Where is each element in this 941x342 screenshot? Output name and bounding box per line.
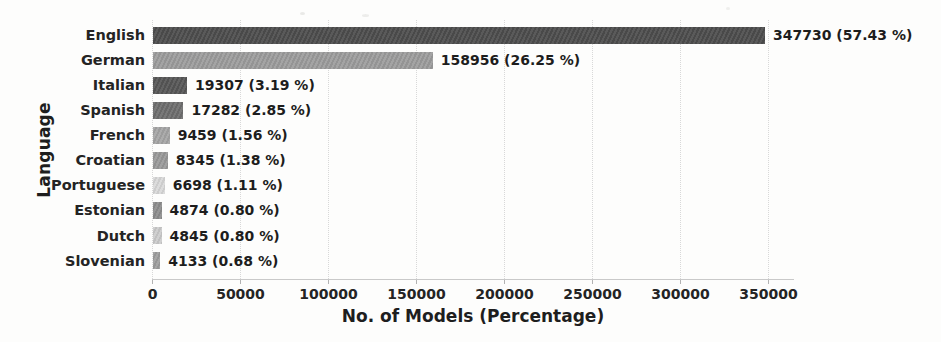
- gridline: [768, 20, 769, 279]
- bar: [153, 27, 765, 44]
- bar-value-label: 9459 (1.56 %): [178, 126, 288, 144]
- bar-value-label: 17282 (2.85 %): [191, 101, 311, 119]
- bar: [153, 177, 165, 194]
- bar-value-label: 4874 (0.80 %): [170, 201, 280, 219]
- bar-value-label: 4845 (0.80 %): [170, 227, 280, 245]
- language-models-bar-chart: Language 347730 (57.43 %)158956 (26.25 %…: [0, 0, 941, 342]
- bar-value-label: 4133 (0.68 %): [168, 252, 278, 270]
- x-axis-tick-label: 0: [118, 286, 188, 302]
- x-axis-tick: [416, 280, 417, 284]
- x-axis-tick: [504, 280, 505, 284]
- scan-speck: [362, 14, 369, 17]
- x-axis-title: No. of Models (Percentage): [152, 306, 794, 326]
- x-axis-tick: [152, 280, 153, 284]
- category-label: German: [0, 51, 145, 69]
- x-axis-line: [152, 279, 794, 280]
- scan-speck: [726, 7, 730, 10]
- bar: [153, 152, 168, 169]
- category-label: Dutch: [0, 227, 145, 245]
- x-axis-tick-label: 150000: [382, 286, 452, 302]
- bar-value-label: 6698 (1.11 %): [173, 176, 283, 194]
- x-axis-tick-label: 350000: [734, 286, 804, 302]
- category-label: Italian: [0, 76, 145, 94]
- x-axis-tick-label: 250000: [558, 286, 628, 302]
- x-axis-tick: [592, 280, 593, 284]
- bar-value-label: 347730 (57.43 %): [773, 26, 912, 44]
- x-axis-tick: [240, 280, 241, 284]
- x-axis-tick-label: 50000: [206, 286, 276, 302]
- category-label: Slovenian: [0, 252, 145, 270]
- bar: [153, 102, 183, 119]
- bar-value-label: 19307 (3.19 %): [195, 76, 315, 94]
- bar: [153, 252, 160, 269]
- category-label: Estonian: [0, 201, 145, 219]
- bar: [153, 227, 162, 244]
- bar: [153, 127, 170, 144]
- x-axis-tick: [680, 280, 681, 284]
- x-axis-tick: [768, 280, 769, 284]
- bar: [153, 202, 162, 219]
- gridline: [680, 20, 681, 279]
- bar-value-label: 8345 (1.38 %): [176, 151, 286, 169]
- scan-speck: [300, 12, 305, 15]
- bar: [153, 52, 433, 69]
- gridline: [592, 20, 593, 279]
- x-axis-tick-label: 100000: [294, 286, 364, 302]
- bar-value-label: 158956 (26.25 %): [441, 51, 580, 69]
- category-label: Croatian: [0, 151, 145, 169]
- category-label: Spanish: [0, 101, 145, 119]
- category-label: Portuguese: [0, 176, 145, 194]
- x-axis-tick-label: 200000: [470, 286, 540, 302]
- x-axis-tick-label: 300000: [646, 286, 716, 302]
- category-label: English: [0, 26, 145, 44]
- category-label: French: [0, 126, 145, 144]
- x-axis-tick: [328, 280, 329, 284]
- bar: [153, 77, 187, 94]
